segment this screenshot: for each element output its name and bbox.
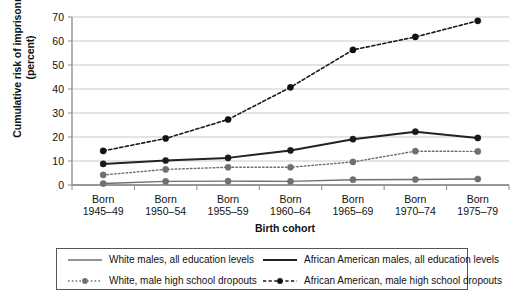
data-point <box>100 172 106 178</box>
data-point <box>350 47 356 53</box>
data-point <box>350 159 356 165</box>
data-point <box>475 148 481 154</box>
data-point <box>412 129 418 135</box>
legend-label-white-dropouts: White, male high school dropouts <box>109 275 257 286</box>
data-point <box>287 178 293 184</box>
legend-row-1: White males, all education levels Africa… <box>57 249 467 270</box>
data-point <box>412 176 418 182</box>
data-point <box>225 116 231 122</box>
legend-item-aa-dropouts[interactable]: African American, male high school dropo… <box>262 270 502 291</box>
data-point <box>350 177 356 183</box>
legend-label-white-all: White males, all education levels <box>109 254 254 265</box>
data-point <box>163 178 169 184</box>
series-line-2 <box>103 151 478 175</box>
data-point <box>475 135 481 141</box>
chart-container: Cumulative risk of imprisonment (percent… <box>0 0 523 300</box>
data-point <box>287 84 293 90</box>
data-point <box>412 34 418 40</box>
data-point <box>287 147 293 153</box>
data-point <box>225 155 231 161</box>
data-point <box>225 178 231 184</box>
data-point <box>163 157 169 163</box>
legend-item-white-all[interactable]: White males, all education levels <box>67 249 254 270</box>
legend-swatch-aa-all <box>262 253 298 267</box>
x-axis-title: Birth cohort <box>60 222 510 234</box>
legend-swatch-aa-dropouts <box>262 274 298 288</box>
data-point <box>287 164 293 170</box>
data-point <box>350 136 356 142</box>
data-point <box>100 180 106 186</box>
data-point <box>100 148 106 154</box>
data-point <box>475 176 481 182</box>
data-point <box>163 135 169 141</box>
legend-swatch-white-all <box>67 253 103 267</box>
data-point <box>225 164 231 170</box>
data-point <box>475 18 481 24</box>
legend-row-2: White, male high school dropouts African… <box>57 270 467 291</box>
legend-label-aa-dropouts: African American, male high school dropo… <box>304 275 502 286</box>
legend-swatch-white-dropouts <box>67 274 103 288</box>
data-point <box>163 166 169 172</box>
chart-legend: White males, all education levels Africa… <box>56 248 468 290</box>
legend-item-white-dropouts[interactable]: White, male high school dropouts <box>67 270 257 291</box>
legend-label-aa-all: African American males, all education le… <box>304 254 499 265</box>
data-point <box>100 161 106 167</box>
legend-item-aa-all[interactable]: African American males, all education le… <box>262 249 499 270</box>
data-point <box>412 148 418 154</box>
